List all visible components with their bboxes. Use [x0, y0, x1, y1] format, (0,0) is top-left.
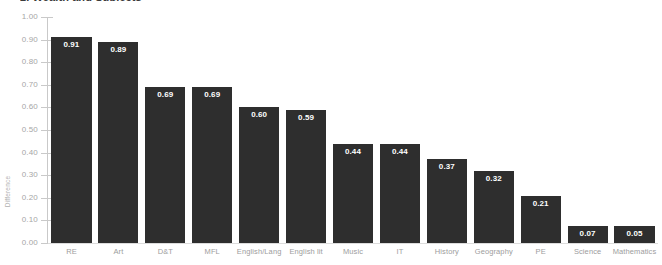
category-label: D&T — [142, 247, 189, 256]
category-label: English/Lang — [236, 247, 283, 256]
y-tick-label-text: 0.80 — [22, 57, 38, 66]
category-label: English lit — [283, 247, 330, 256]
chart-root: 2. Wealth and Subjects Difference 1.000.… — [0, 0, 662, 265]
category-label: Mathematics — [611, 247, 658, 256]
bar-column[interactable]: 0.07 — [568, 17, 608, 243]
y-tick-label-text: 0.70 — [22, 80, 38, 89]
chart-title: 2. Wealth and Subjects — [20, 0, 142, 1]
y-tick-label-text: 0.10 — [22, 215, 38, 224]
bar[interactable]: 0.69 — [145, 87, 185, 243]
y-tick-label-text: 0.50 — [22, 125, 38, 134]
bar[interactable]: 0.59 — [286, 110, 326, 243]
category-label: PE — [517, 247, 564, 256]
category-label: Geography — [470, 247, 517, 256]
y-tick-label-text: 0.30 — [22, 170, 38, 179]
bar[interactable]: 0.60 — [239, 107, 279, 243]
y-tick-label-text: 0.90 — [22, 35, 38, 44]
y-tick-label-text: 0.20 — [22, 193, 38, 202]
plot-area: 0.910.890.690.690.600.590.440.440.370.32… — [48, 17, 658, 243]
bar[interactable]: 0.37 — [427, 159, 467, 243]
category-label: Art — [95, 247, 142, 256]
bar-value-label: 0.32 — [486, 175, 502, 183]
y-tick-label-text: 0.40 — [22, 148, 38, 157]
bar[interactable]: 0.07 — [568, 226, 608, 243]
bar-value-label: 0.69 — [157, 91, 173, 99]
bar-value-label: 0.44 — [392, 148, 408, 156]
category-label: Science — [564, 247, 611, 256]
bar-value-label: 0.07 — [580, 230, 596, 238]
bar-value-label: 0.44 — [345, 148, 361, 156]
bar-value-label: 0.21 — [533, 200, 549, 208]
bar-value-label: 0.91 — [63, 41, 79, 49]
bar-value-label: 0.37 — [439, 163, 455, 171]
y-axis-title: Difference — [4, 162, 11, 222]
y-tick-label-text: 0.60 — [22, 102, 38, 111]
bar-column[interactable]: 0.05 — [614, 17, 654, 243]
y-tick-label-text: 0.00 — [22, 238, 38, 247]
bar[interactable]: 0.69 — [192, 87, 232, 243]
bar-column[interactable]: 0.69 — [145, 17, 185, 243]
bar[interactable]: 0.91 — [51, 37, 91, 243]
category-label: IT — [376, 247, 423, 256]
bar[interactable]: 0.89 — [98, 42, 138, 243]
category-label: Music — [330, 247, 377, 256]
bar-column[interactable]: 0.91 — [51, 17, 91, 243]
bar-column[interactable]: 0.37 — [427, 17, 467, 243]
bar-column[interactable]: 0.59 — [286, 17, 326, 243]
bar-column[interactable]: 0.21 — [521, 17, 561, 243]
bar-column[interactable]: 0.44 — [333, 17, 373, 243]
bar[interactable]: 0.44 — [380, 144, 420, 243]
bar-column[interactable]: 0.32 — [474, 17, 514, 243]
bar-column[interactable]: 0.69 — [192, 17, 232, 243]
x-axis-baseline — [48, 243, 658, 244]
bar[interactable]: 0.21 — [521, 196, 561, 243]
bar-column[interactable]: 0.44 — [380, 17, 420, 243]
bar-value-label: 0.05 — [627, 230, 643, 238]
bar-value-label: 0.59 — [298, 114, 314, 122]
bar[interactable]: 0.44 — [333, 144, 373, 243]
bar-value-label: 0.89 — [110, 46, 126, 54]
category-label: MFL — [189, 247, 236, 256]
category-label: RE — [48, 247, 95, 256]
bar-value-label: 0.60 — [251, 111, 267, 119]
y-tick-label-text: 1.00 — [22, 12, 38, 21]
category-label: History — [423, 247, 470, 256]
bar-column[interactable]: 0.60 — [239, 17, 279, 243]
bar-value-label: 0.69 — [204, 91, 220, 99]
bar-column[interactable]: 0.89 — [98, 17, 138, 243]
bar[interactable]: 0.32 — [474, 171, 514, 243]
bar[interactable]: 0.05 — [614, 226, 654, 243]
